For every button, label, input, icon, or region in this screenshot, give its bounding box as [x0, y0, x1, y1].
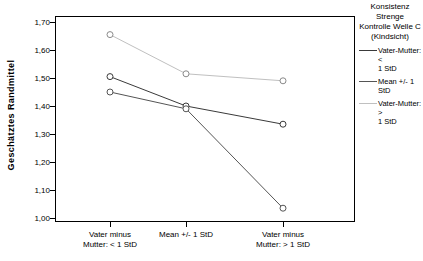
x-axis-tick-label: Mean +/- 1 StD — [159, 230, 213, 240]
y-axis-tick-label: 1,50 — [34, 74, 50, 83]
series-line — [110, 35, 283, 81]
y-axis-tick-mark — [50, 22, 55, 23]
x-axis-tick-label-line: Mean +/- 1 StD — [159, 230, 213, 240]
data-point-marker — [280, 205, 286, 211]
legend-title-line: Konsistenz Strenge — [358, 2, 422, 22]
x-axis-tick-label: Vater minusMutter: > 1 StD — [256, 230, 310, 250]
x-axis-tick-label-line: Vater minus — [83, 230, 137, 240]
plot-area — [55, 16, 355, 222]
series-line — [110, 77, 283, 125]
legend-title-line: (Kindsicht) — [358, 32, 422, 42]
y-axis-tick-label: 1,70 — [34, 18, 50, 27]
y-axis-tick-mark — [50, 50, 55, 51]
y-axis-tick-label: 1,10 — [34, 186, 50, 195]
y-axis-tick-mark — [50, 134, 55, 135]
legend-line-swatch — [358, 77, 378, 86]
y-axis-tick-mark — [50, 218, 55, 219]
y-axis-title-text: Geschätztes Randmittel — [6, 60, 16, 171]
legend-item-label: Mean +/- 1 StD — [378, 77, 422, 95]
series-canvas — [56, 17, 354, 221]
x-axis-tick-mark — [110, 222, 111, 227]
legend-item-label-line: Mean +/- 1 StD — [378, 77, 422, 95]
legend-title-line: Kontrolle Welle C — [358, 22, 422, 32]
y-axis-tick-label: 1,00 — [34, 214, 50, 223]
data-point-marker — [107, 89, 113, 95]
legend-item-label-line: Vater-Mutter: < — [378, 46, 422, 64]
legend-item-label: Vater-Mutter: <1 StD — [378, 46, 422, 73]
x-axis-tick-label-line: Mutter: < 1 StD — [83, 240, 137, 250]
data-point-marker — [107, 74, 113, 80]
legend-item-label: Vater-Mutter: >1 StD — [378, 99, 422, 126]
x-axis-tick-label: Vater minusMutter: < 1 StD — [83, 230, 137, 250]
series-line — [110, 92, 283, 208]
legend-item[interactable]: Vater-Mutter: >1 StD — [358, 99, 422, 126]
y-axis-tick-labels: 1,701,601,501,401,301,201,101,00 — [18, 0, 50, 261]
y-axis-tick-label: 1,60 — [34, 46, 50, 55]
legend-item-label-line: 1 StD — [378, 117, 422, 126]
legend: Konsistenz StrengeKontrolle Welle C(Kind… — [358, 2, 422, 126]
y-axis-tick-mark — [50, 106, 55, 107]
x-axis-tick-mark — [186, 222, 187, 227]
y-axis-tick-label: 1,20 — [34, 158, 50, 167]
legend-line-swatch — [358, 99, 378, 108]
y-axis-tick-mark — [50, 190, 55, 191]
legend-item[interactable]: Vater-Mutter: <1 StD — [358, 46, 422, 73]
y-axis-tick-mark — [50, 78, 55, 79]
data-point-marker — [183, 106, 189, 112]
x-axis-tick-mark — [283, 222, 284, 227]
x-axis-tick-label-line: Mutter: > 1 StD — [256, 240, 310, 250]
data-point-marker — [280, 78, 286, 84]
legend-item-label-line: Vater-Mutter: > — [378, 99, 422, 117]
data-point-marker — [107, 32, 113, 38]
y-axis-tick-label: 1,40 — [34, 102, 50, 111]
y-axis-tick-mark — [50, 162, 55, 163]
chart-figure: Geschätztes Randmittel 1,701,601,501,401… — [0, 0, 423, 261]
legend-item[interactable]: Mean +/- 1 StD — [358, 77, 422, 95]
y-axis-tick-label: 1,30 — [34, 130, 50, 139]
data-point-marker — [280, 121, 286, 127]
x-axis-tick-label-line: Vater minus — [256, 230, 310, 240]
legend-title: Konsistenz StrengeKontrolle Welle C(Kind… — [358, 2, 422, 42]
legend-item-label-line: 1 StD — [378, 64, 422, 73]
data-point-marker — [183, 71, 189, 77]
legend-items: Vater-Mutter: <1 StDMean +/- 1 StDVater-… — [358, 46, 422, 126]
legend-line-swatch — [358, 46, 378, 55]
